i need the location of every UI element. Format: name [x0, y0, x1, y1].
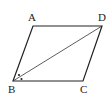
- angle-mark-dot-1: [18, 74, 20, 76]
- parallelogram-diagram: A D B C: [0, 0, 111, 96]
- vertex-label-a: A: [28, 11, 36, 23]
- vertex-label-c: C: [80, 83, 87, 95]
- angle-mark-dot-2: [20, 78, 22, 80]
- diagonal-bd: [13, 26, 102, 81]
- vertex-label-b: B: [8, 83, 15, 95]
- vertex-label-d: D: [98, 11, 106, 23]
